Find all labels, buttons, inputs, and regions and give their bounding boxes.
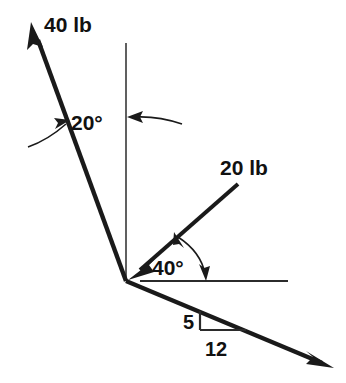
force-diagram: 40 lb 20 lb 20° 40° 5 12: [0, 0, 346, 383]
angle-40-degrees-label: 40°: [152, 256, 184, 279]
force-40lb-arrowhead: [27, 22, 43, 50]
force-40lb-label: 40 lb: [44, 13, 92, 36]
force-40lb-vector: [38, 40, 126, 281]
force-diagram-canvas: 40 lb 20 lb 20° 40° 5 12: [0, 0, 346, 383]
leader-arrow-to-40lb-vector: [28, 124, 66, 147]
slope-rise-label: 5: [183, 311, 194, 333]
force-20lb-label: 20 lb: [220, 156, 268, 179]
angle-20-degrees-label: 20°: [71, 111, 103, 134]
angle-40-arc-arrowhead-lower: [199, 264, 210, 281]
slope-run-label: 12: [205, 338, 227, 360]
